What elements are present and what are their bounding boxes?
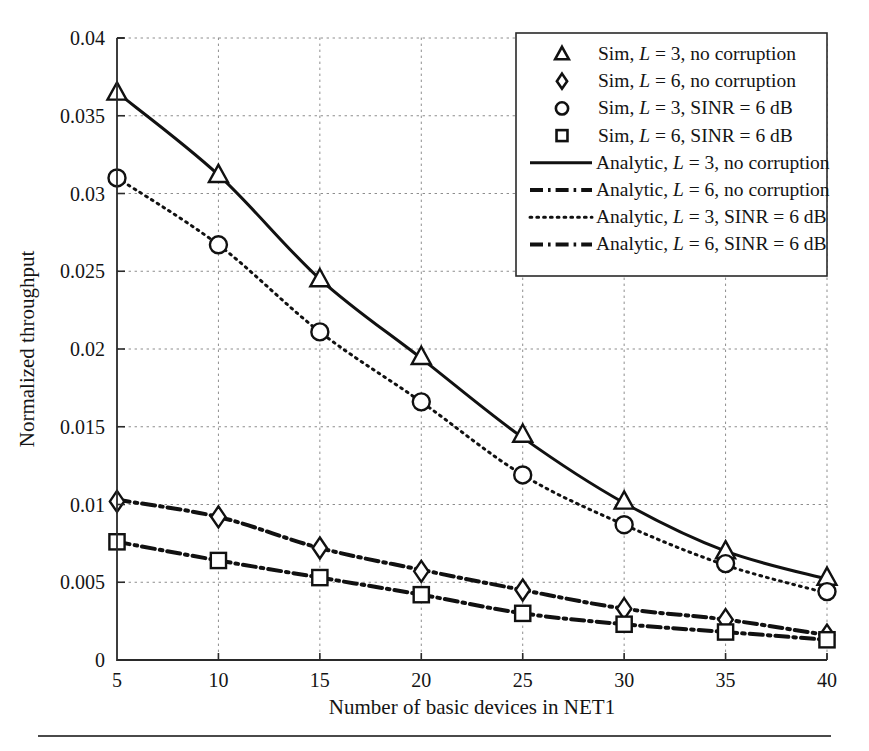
marker-square bbox=[211, 553, 226, 568]
legend-label: Analytic, L = 3, no corruption bbox=[596, 152, 830, 173]
legend-label: Sim, L = 3, SINR = 6 dB bbox=[598, 97, 793, 118]
x-tick-label: 10 bbox=[208, 669, 228, 691]
marker-circle bbox=[616, 516, 633, 533]
legend-label: Sim, L = 6, SINR = 6 dB bbox=[598, 125, 793, 146]
y-tick-label: 0.01 bbox=[70, 494, 105, 516]
figure-container: 510152025303540 00.0050.010.0150.020.025… bbox=[0, 0, 869, 751]
marker-square bbox=[312, 570, 327, 585]
y-axis-title: Normalized throughput bbox=[15, 251, 39, 448]
marker-circle bbox=[210, 236, 227, 253]
y-tick-label: 0.04 bbox=[70, 27, 105, 49]
y-tick-label: 0.015 bbox=[60, 416, 105, 438]
x-tick-labels: 510152025303540 bbox=[112, 669, 837, 691]
y-tick-label: 0.005 bbox=[60, 571, 105, 593]
x-tick-label: 30 bbox=[614, 669, 634, 691]
chart-canvas: 510152025303540 00.0050.010.0150.020.025… bbox=[0, 0, 869, 751]
y-tick-label: 0.02 bbox=[70, 338, 105, 360]
x-tick-label: 5 bbox=[112, 669, 122, 691]
x-tick-label: 25 bbox=[513, 669, 533, 691]
marker-square bbox=[718, 624, 733, 639]
legend: Sim, L = 3, no corruptionSim, L = 6, no … bbox=[516, 33, 830, 276]
legend-label: Analytic, L = 6, SINR = 6 dB bbox=[596, 233, 827, 254]
y-tick-label: 0.035 bbox=[60, 105, 105, 127]
x-axis-title: Number of basic devices in NET1 bbox=[329, 695, 615, 719]
marker-circle bbox=[717, 555, 734, 572]
x-tick-label: 35 bbox=[716, 669, 736, 691]
legend-label: Sim, L = 3, no corruption bbox=[598, 43, 796, 64]
y-tick-label: 0.03 bbox=[70, 183, 105, 205]
x-tick-label: 15 bbox=[310, 669, 330, 691]
marker-square bbox=[414, 587, 429, 602]
legend-label: Analytic, L = 6, no corruption bbox=[596, 179, 830, 200]
legend-label: Analytic, L = 3, SINR = 6 dB bbox=[596, 206, 827, 227]
marker-square bbox=[819, 632, 834, 647]
marker-circle bbox=[514, 466, 531, 483]
marker-square bbox=[617, 617, 632, 632]
marker-circle bbox=[556, 102, 568, 114]
y-tick-labels: 00.0050.010.0150.020.0250.030.0350.04 bbox=[60, 27, 105, 671]
y-tick-label: 0.025 bbox=[60, 260, 105, 282]
x-tick-label: 20 bbox=[411, 669, 431, 691]
x-tick-label: 40 bbox=[817, 669, 837, 691]
marker-circle bbox=[819, 583, 836, 600]
page-rule bbox=[38, 735, 831, 737]
marker-circle bbox=[413, 393, 430, 410]
marker-square bbox=[515, 606, 530, 621]
marker-circle bbox=[311, 323, 328, 340]
marker-square bbox=[557, 130, 568, 141]
y-tick-label: 0 bbox=[95, 649, 105, 671]
legend-label: Sim, L = 6, no corruption bbox=[598, 70, 796, 91]
